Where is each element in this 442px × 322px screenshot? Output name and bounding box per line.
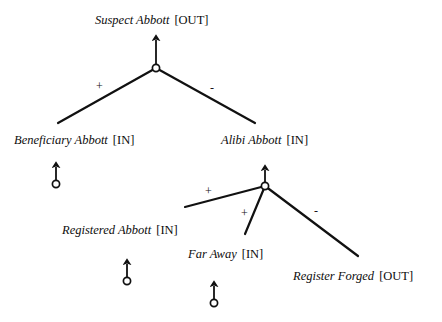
- edge-sign-alibi-attacks-suspect: -: [210, 82, 214, 94]
- node-label-suspect: Suspect Abbott[OUT]: [95, 14, 208, 27]
- edge-sign-beneficiary-supports-suspect: +: [96, 80, 103, 92]
- edge-sign-registered-supports-alibi: +: [205, 185, 212, 197]
- assumption-marker-beneficiary: [52, 167, 59, 188]
- node-label-alibi: Alibi Abbott[IN]: [221, 134, 308, 147]
- node-name-suspect: Suspect Abbott: [95, 13, 169, 27]
- junction-arrow-alibi: [261, 170, 268, 190]
- argument-diagram: Suspect Abbott[OUT] Beneficiary Abbott[I…: [0, 0, 442, 322]
- node-label-forged: Register Forged[OUT]: [293, 270, 413, 283]
- node-status-forged: [OUT]: [379, 269, 413, 283]
- junction-arrow-suspect: [152, 40, 159, 72]
- edge-beneficiary-supports-suspect: [58, 68, 156, 123]
- node-label-faraway: Far Away[IN]: [188, 248, 263, 261]
- node-status-suspect: [OUT]: [174, 13, 208, 27]
- edge-faraway-supports-alibi: [245, 186, 265, 234]
- edge-registered-supports-alibi: [185, 186, 265, 207]
- edge-alibi-attacks-suspect: [156, 68, 255, 123]
- edge-sign-faraway-supports-alibi: +: [241, 207, 248, 219]
- assumption-marker-faraway: [210, 286, 217, 307]
- node-name-beneficiary: Beneficiary Abbott: [14, 133, 108, 147]
- assumption-marker-registered: [123, 264, 130, 285]
- node-name-registered: Registered Abbott: [62, 223, 151, 237]
- node-status-beneficiary: [IN]: [113, 133, 135, 147]
- node-name-alibi: Alibi Abbott: [221, 133, 282, 147]
- node-name-faraway: Far Away: [188, 247, 237, 261]
- node-name-forged: Register Forged: [293, 269, 374, 283]
- node-status-registered: [IN]: [156, 223, 178, 237]
- edge-sign-forged-attacks-alibi: -: [314, 205, 318, 217]
- node-label-beneficiary: Beneficiary Abbott[IN]: [14, 134, 134, 147]
- edge-forged-attacks-alibi: [265, 186, 358, 256]
- node-label-registered: Registered Abbott[IN]: [62, 224, 178, 237]
- node-status-alibi: [IN]: [287, 133, 309, 147]
- node-status-faraway: [IN]: [242, 247, 264, 261]
